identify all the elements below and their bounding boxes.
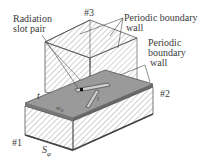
label-thickness: t [37,91,40,101]
label-wx-sub: x [61,107,64,113]
label-line: slot pair [13,24,52,34]
label-sphi-sub: φ [47,150,51,158]
label-port1: #1 [12,138,22,148]
label-port3: #3 [84,8,94,18]
label-periodic-wall-right: Periodic boundary wall [148,38,186,68]
label-line: wall [148,58,186,68]
label-radiation-slot-pair: Radiation slot pair [13,14,52,34]
label-line: wall [124,23,198,33]
label-l: l [97,94,99,104]
label-sphi: Sφ [42,145,51,159]
label-port2: #2 [160,89,170,99]
label-wx: wx [56,103,63,115]
label-periodic-wall-top: Periodic boundary wall [124,13,198,33]
